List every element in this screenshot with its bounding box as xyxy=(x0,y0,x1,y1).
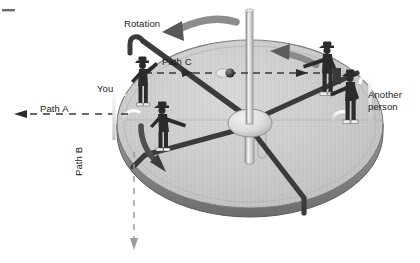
label-you: You xyxy=(97,83,113,94)
path-b-arrowhead xyxy=(130,238,138,250)
label-path-b: Path B xyxy=(73,147,84,176)
merry-go-round-diagram xyxy=(0,0,420,263)
rotation-arrow-head xyxy=(162,21,184,41)
center-pole-cap xyxy=(246,9,253,12)
label-another-person: Another person xyxy=(368,89,420,113)
center-pole-upper xyxy=(246,9,253,124)
rotation-arrow xyxy=(162,19,236,41)
label-another-person-line2: person xyxy=(368,101,398,112)
spoke-post-upper-left xyxy=(130,37,143,53)
label-another-person-line1: Another xyxy=(368,89,402,100)
center-pole-shaft xyxy=(246,10,253,124)
path-a-line xyxy=(14,110,128,118)
label-rotation: Rotation xyxy=(124,18,160,29)
label-path-c: Path C xyxy=(162,56,192,67)
label-path-a: Path A xyxy=(40,103,69,114)
scan-tick-mark xyxy=(2,9,15,11)
path-a-arrowhead xyxy=(14,110,27,118)
thrown-ball xyxy=(225,68,234,77)
